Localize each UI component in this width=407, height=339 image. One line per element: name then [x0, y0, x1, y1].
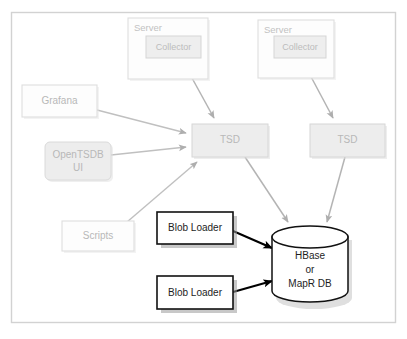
tsd-box-1-label: TSD [220, 134, 240, 145]
grafana-box-label: Grafana [41, 95, 78, 106]
collector-box-2[interactable]: Collector [274, 36, 326, 58]
server-box-1-label: Server [134, 22, 162, 33]
database-label-line3: MapR DB [288, 278, 332, 289]
database-label-line1: HBase [295, 250, 325, 261]
database-label-line2: or [306, 264, 316, 275]
blob-loader-box-1-label: Blob Loader [168, 222, 223, 233]
tsd-box-2-label: TSD [338, 134, 358, 145]
blob-loader-box-2-label: Blob Loader [168, 287, 223, 298]
scripts-box-label: Scripts [83, 230, 114, 241]
blob-loader-box-1[interactable]: Blob Loader [157, 212, 237, 248]
collector-box-1[interactable]: Collector [146, 36, 201, 58]
diagram-canvas: Server Collector Server Collector Grafan… [0, 0, 407, 339]
tsd-box-1[interactable]: TSD [192, 124, 270, 159]
collector-box-1-label: Collector [156, 42, 192, 52]
tsd-box-2[interactable]: TSD [310, 124, 387, 159]
opentsdb-ui-box-label-line1: OpenTSDB [52, 149, 103, 160]
database-cylinder[interactable]: HBase or MapR DB [272, 226, 352, 309]
grafana-box[interactable]: Grafana [22, 85, 99, 119]
blob-loader-box-2[interactable]: Blob Loader [157, 276, 237, 313]
scripts-box[interactable]: Scripts [62, 221, 136, 253]
server-box-2-label: Server [264, 24, 292, 35]
collector-box-2-label: Collector [282, 42, 318, 52]
architecture-diagram: Server Collector Server Collector Grafan… [0, 0, 407, 339]
opentsdb-ui-box[interactable]: OpenTSDB UI [45, 142, 113, 182]
opentsdb-ui-box-label-line2: UI [73, 162, 83, 173]
